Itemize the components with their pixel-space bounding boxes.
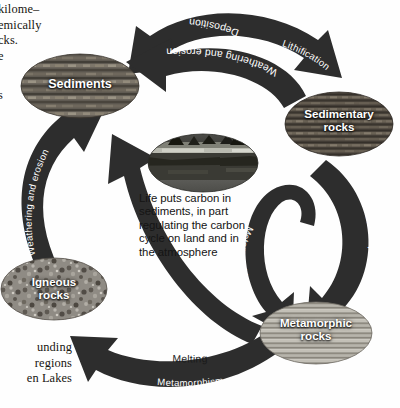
- node-metamorphic-ellipse[interactable]: [260, 302, 372, 364]
- page-margin-text-bottom-left: unding regions en Lakes: [0, 340, 72, 387]
- node-sedimentary-ellipse[interactable]: [285, 92, 393, 156]
- page-margin-text-top-left: kilome– emically cks. e s: [0, 2, 41, 104]
- node-igneous-ellipse[interactable]: [1, 258, 107, 320]
- center-landscape-photo: [148, 134, 258, 192]
- arrow-label-melting: Melting: [172, 353, 207, 364]
- center-caption: Life puts carbon in sediments, in part r…: [139, 192, 269, 259]
- arrow-weathering-top: [126, 38, 306, 108]
- rock-cycle-figure: Deposition Lithification Weathering and …: [0, 0, 400, 408]
